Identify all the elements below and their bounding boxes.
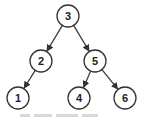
caption-mark [82,114,98,117]
tree-node-6: 6 [114,87,136,109]
tree-node-1: 1 [7,87,29,109]
caption-mark [56,114,78,117]
node-label: 6 [122,92,128,104]
edge-5-to-6 [102,70,118,90]
caption-mark [34,114,52,117]
edge-5-to-4 [84,71,91,87]
tree-node-2: 2 [30,50,52,72]
tree-node-5: 5 [84,50,106,72]
edge-2-to-1 [24,70,35,88]
edge-3-to-2 [47,25,62,51]
node-label: 5 [92,55,98,67]
edge-3-to-5 [74,25,89,51]
caption-faint [20,114,125,118]
caption-mark [20,114,30,117]
tree-node-3: 3 [57,5,79,27]
node-label: 2 [38,55,44,67]
node-label: 3 [65,10,71,22]
tree-node-4: 4 [68,87,90,109]
tree-diagram: 325146 [0,0,143,122]
node-label: 4 [76,92,83,104]
nodes-group: 325146 [7,5,136,109]
node-label: 1 [15,92,21,104]
